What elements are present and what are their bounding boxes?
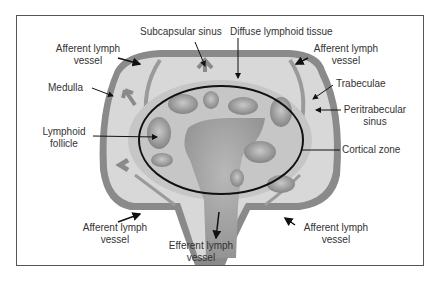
label-efferent: Efferent lymph vessel [164, 240, 238, 264]
label-afferent-top-left: Afferent lymph vessel [52, 43, 124, 67]
label-peritrabecular-sinus: Peritrabecular sinus [340, 104, 410, 128]
label-medulla: Medulla [48, 82, 83, 94]
label-line: vessel [52, 55, 124, 67]
label-line: vessel [78, 234, 152, 246]
label-afferent-bottom-right: Afferent lymph vessel [298, 222, 374, 246]
label-line: Afferent lymph [308, 43, 384, 55]
label-line: vessel [298, 234, 374, 246]
label-line: Afferent lymph [78, 222, 152, 234]
label-line: sinus [340, 116, 410, 128]
label-trabeculae: Trabeculae [336, 78, 386, 90]
label-line: Lymphoid [36, 126, 92, 138]
label-afferent-top-right: Afferent lymph vessel [308, 43, 384, 67]
label-cortical-zone: Cortical zone [342, 144, 400, 156]
lymphoid-follicle [147, 117, 171, 149]
label-line: vessel [164, 252, 238, 264]
label-line: Efferent lymph [164, 240, 238, 252]
label-diffuse-lymphoid-tissue: Diffuse lymphoid tissue [230, 26, 333, 38]
label-subcapsular-sinus: Subcapsular sinus [140, 26, 222, 38]
label-lymphoid-follicle: Lymphoid follicle [36, 126, 92, 150]
label-line: Afferent lymph [52, 43, 124, 55]
label-line: Afferent lymph [298, 222, 374, 234]
label-line: Peritrabecular [340, 104, 410, 116]
label-line: follicle [36, 138, 92, 150]
label-afferent-bottom-left: Afferent lymph vessel [78, 222, 152, 246]
label-line: vessel [308, 55, 384, 67]
